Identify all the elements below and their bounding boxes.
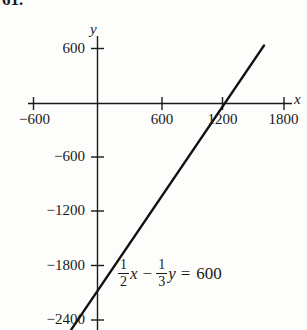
equation-annotation: 1 2 x − 1 3 y = 600: [118, 258, 222, 290]
x-tick-label-600: 600: [139, 112, 185, 127]
y-tick-label-minus600: −600: [23, 149, 85, 164]
figure-canvas: 61. −600 600 1200 1800 600 −600 −1200 −1…: [0, 0, 307, 330]
y-tick-label-minus1800: −1800: [16, 258, 85, 273]
x-tick-label-1200: 1200: [198, 112, 247, 127]
y-tick-label-minus2400: −2400: [16, 312, 85, 327]
fraction-numerator: 1: [156, 258, 167, 272]
fraction-numerator: 1: [118, 258, 129, 272]
equation-variable-x: x: [129, 264, 139, 284]
equation-operator: −: [139, 264, 157, 284]
y-tick-label-600: 600: [23, 41, 85, 56]
y-axis-label: y: [90, 22, 97, 37]
fraction-one-third: 1 3: [156, 258, 167, 290]
equation-right-hand-side: 600: [194, 264, 222, 284]
equation-variable-y: y: [167, 264, 177, 284]
x-axis-label: x: [294, 92, 301, 107]
fraction-denominator: 2: [118, 275, 129, 289]
equation-equals-sign: =: [177, 264, 195, 284]
y-tick-label-minus1200: −1200: [16, 203, 85, 218]
fraction-denominator: 3: [156, 275, 167, 289]
x-tick-label-1800: 1800: [259, 112, 307, 127]
x-tick-label-minus600: −600: [7, 112, 62, 127]
fraction-one-half: 1 2: [118, 258, 129, 290]
